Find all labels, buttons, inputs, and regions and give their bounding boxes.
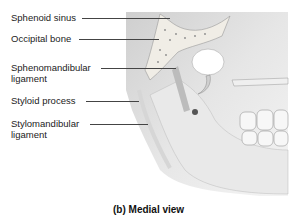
leader-line [86, 101, 139, 102]
label-sphenomandibular-ligament: Sphenomandibularligament [11, 62, 91, 84]
leader-line [79, 39, 159, 40]
label-styloid-process: Styloid process [11, 95, 75, 106]
label-occipital-bone: Occipital bone [11, 33, 71, 44]
leader-line [82, 18, 170, 19]
leader-line [101, 68, 176, 69]
figure-caption: (b) Medial view [113, 204, 184, 215]
label-stylomandibular-ligament: Stylomandibularligament [11, 118, 79, 140]
label-sphenoid-sinus: Sphenoid sinus [11, 12, 76, 23]
leader-line [90, 124, 148, 125]
